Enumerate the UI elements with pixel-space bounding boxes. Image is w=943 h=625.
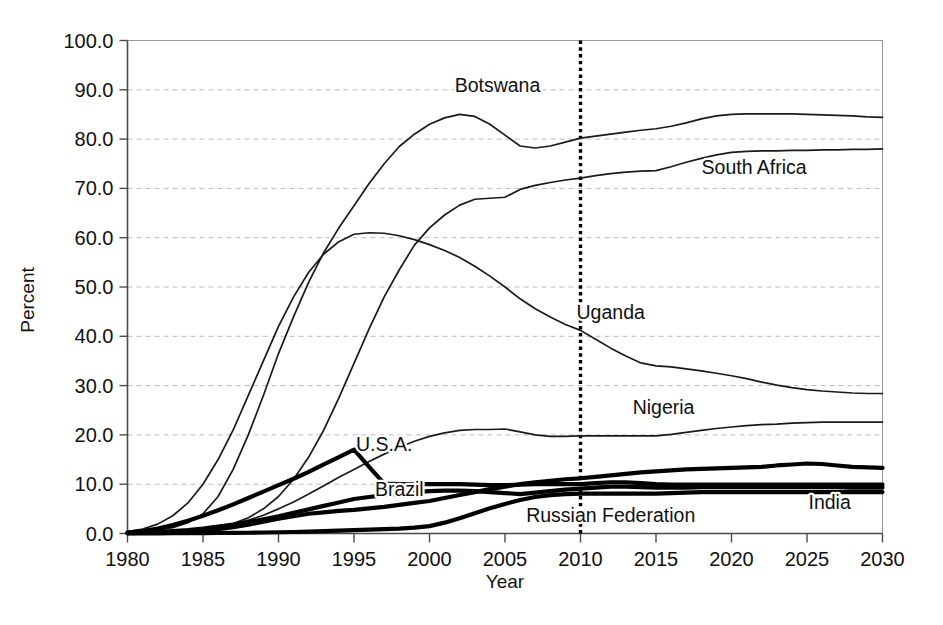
y-tick-label: 40.0 — [75, 325, 114, 347]
series-label-nigeria: Nigeria — [633, 396, 695, 418]
x-tick-label: 2015 — [634, 548, 679, 570]
line-chart-canvas: 0.010.020.030.040.050.060.070.080.090.01… — [0, 0, 943, 625]
x-tick-label: 1985 — [181, 548, 226, 570]
series-label-brazil: Brazil — [375, 478, 424, 500]
series-label-south-africa: South Africa — [702, 156, 807, 178]
series-label-botswana: Botswana — [455, 74, 541, 96]
chart-figure: 0.010.020.030.040.050.060.070.080.090.01… — [0, 0, 943, 625]
y-tick-label: 100.0 — [63, 30, 113, 52]
x-tick-label: 1995 — [332, 548, 377, 570]
x-tick-label: 2025 — [785, 548, 830, 570]
series-label-india: India — [809, 491, 851, 513]
x-axis-title: Year — [486, 571, 525, 592]
y-tick-label: 30.0 — [75, 375, 114, 397]
y-tick-label: 90.0 — [75, 79, 114, 101]
series-label-u-s-a: U.S.A. — [356, 433, 412, 455]
y-tick-label: 20.0 — [75, 424, 114, 446]
y-tick-label: 50.0 — [75, 276, 114, 298]
x-tick-label: 2000 — [407, 548, 452, 570]
y-tick-label: 0.0 — [86, 523, 114, 545]
y-tick-label: 10.0 — [75, 473, 114, 495]
x-tick-label: 1990 — [256, 548, 301, 570]
x-tick-label: 2010 — [558, 548, 603, 570]
series-label-russian-federation: Russian Federation — [526, 504, 695, 526]
x-tick-label: 2020 — [709, 548, 754, 570]
x-tick-labels-group: 1980198519901995200020052010201520202025… — [105, 548, 905, 570]
y-tick-label: 60.0 — [75, 227, 114, 249]
x-tick-label: 1980 — [105, 548, 150, 570]
y-tick-label: 80.0 — [75, 128, 114, 150]
y-axis-title: Percent — [17, 267, 38, 333]
series-label-uganda: Uganda — [577, 301, 645, 323]
x-tick-label: 2030 — [860, 548, 905, 570]
y-tick-label: 70.0 — [75, 177, 114, 199]
x-tick-label: 2005 — [483, 548, 528, 570]
